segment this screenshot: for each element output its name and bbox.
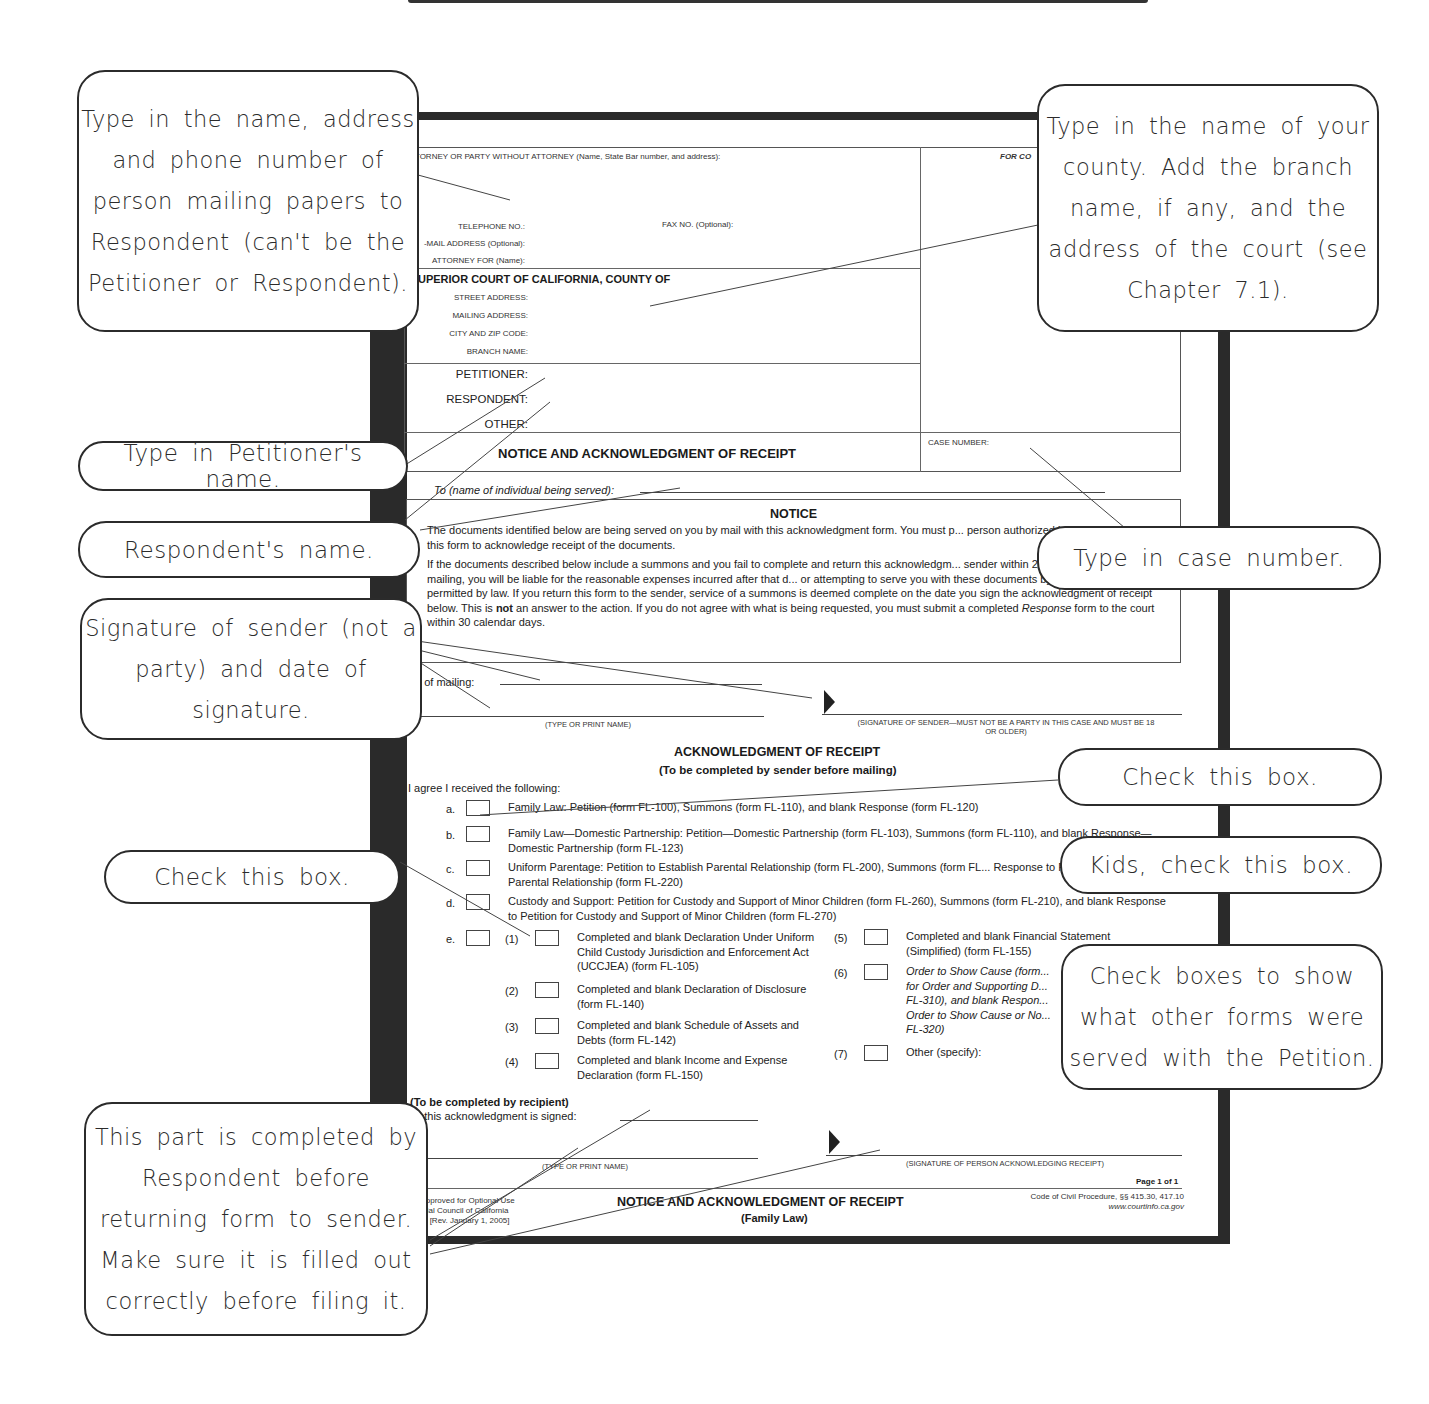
callout-kids-check-box: Kids, check this box.	[1060, 836, 1382, 894]
callout-signature-sender: Signature of sender (not a party) and da…	[80, 598, 422, 740]
callout-other-forms: Check boxes to show what other forms wer…	[1061, 944, 1383, 1090]
callout-check-box-a: Check this box.	[1058, 748, 1382, 806]
callout-respondent-name: Respondent's name.	[78, 521, 420, 578]
callout-case-number: Type in case number.	[1037, 526, 1381, 590]
callout-check-box-e: Check this box.	[104, 850, 400, 904]
callout-petitioner-name: Type in Petitioner's name.	[78, 441, 408, 491]
callout-county: Type in the name of your county. Add the…	[1037, 84, 1379, 332]
callout-recipient-part: This part is completed by Respondent bef…	[84, 1102, 428, 1336]
callout-sender-info: Type in the name, address and phone numb…	[77, 70, 419, 332]
